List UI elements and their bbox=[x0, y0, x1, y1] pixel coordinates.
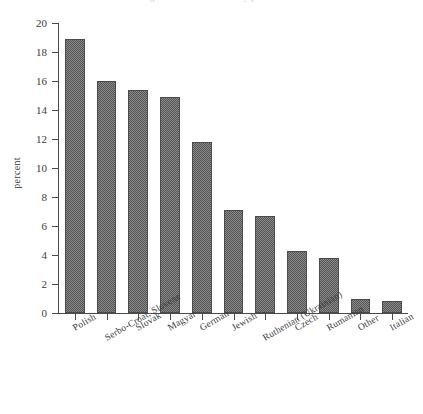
y-tick-label-4: 4 bbox=[0, 250, 47, 261]
x-tick-4 bbox=[202, 314, 203, 320]
bar-slovak bbox=[128, 90, 148, 313]
bar-italian bbox=[382, 301, 402, 313]
bar-magyar bbox=[160, 97, 180, 313]
x-tick-3 bbox=[170, 314, 171, 320]
y-tick-14 bbox=[52, 110, 59, 111]
y-tick-label-6: 6 bbox=[0, 221, 47, 232]
y-tick-label-12: 12 bbox=[0, 134, 47, 145]
bar-serbo-croat-slovene bbox=[97, 81, 117, 313]
bar-chart-figure: Figure 1. Nationalities by percent perce… bbox=[0, 0, 423, 414]
y-tick-label-18: 18 bbox=[0, 47, 47, 58]
y-tick-0 bbox=[52, 313, 59, 314]
bar-polish bbox=[65, 39, 85, 313]
y-tick-label-10: 10 bbox=[0, 163, 47, 174]
y-tick-8 bbox=[52, 197, 59, 198]
x-tick-1 bbox=[107, 314, 108, 320]
y-tick-6 bbox=[52, 226, 59, 227]
x-tick-0 bbox=[75, 314, 76, 320]
y-tick-label-14: 14 bbox=[0, 105, 47, 116]
clipped-figure-title: Figure 1. Nationalities by percent bbox=[0, 0, 423, 4]
x-tick-10 bbox=[392, 314, 393, 320]
bar-czech bbox=[287, 251, 307, 313]
bar-jewish bbox=[224, 210, 244, 313]
y-tick-10 bbox=[52, 168, 59, 169]
y-tick-label-16: 16 bbox=[0, 76, 47, 87]
y-tick-label-0: 0 bbox=[0, 308, 47, 319]
y-tick-12 bbox=[52, 139, 59, 140]
y-tick-4 bbox=[52, 255, 59, 256]
bar-ruthenian-ukrainian bbox=[255, 216, 275, 313]
x-tick-6 bbox=[265, 314, 266, 320]
y-tick-label-8: 8 bbox=[0, 192, 47, 203]
y-tick-label-2: 2 bbox=[0, 279, 47, 290]
y-tick-16 bbox=[52, 81, 59, 82]
x-tick-5 bbox=[234, 314, 235, 320]
plot-area bbox=[59, 23, 408, 313]
bar-german bbox=[192, 142, 212, 313]
y-tick-2 bbox=[52, 284, 59, 285]
y-tick-label-20: 20 bbox=[0, 18, 47, 29]
y-tick-18 bbox=[52, 52, 59, 53]
y-tick-20 bbox=[52, 23, 59, 24]
x-tick-8 bbox=[329, 314, 330, 320]
